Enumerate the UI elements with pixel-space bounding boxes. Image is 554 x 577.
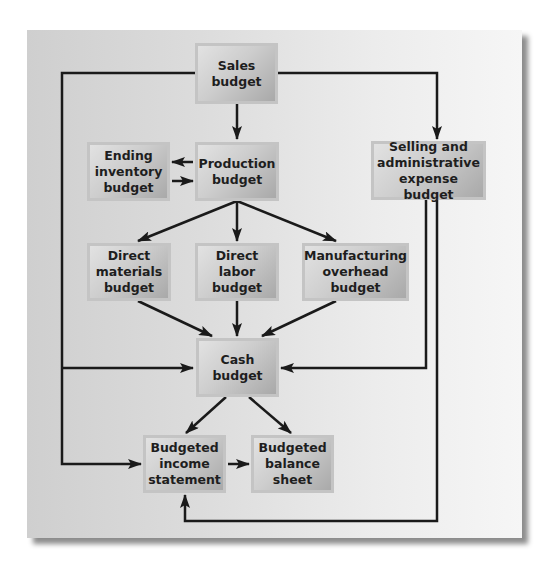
node-label: Cash budget	[212, 352, 262, 384]
node-ending-inventory-budget: Ending inventory budget	[87, 142, 170, 201]
node-label: Budgeted income statement	[148, 440, 221, 488]
node-direct-labor-budget: Direct labor budget	[195, 243, 279, 301]
node-label: Production budget	[199, 156, 276, 188]
node-label: Sales budget	[211, 58, 261, 90]
node-budgeted-balance-sheet: Budgeted balance sheet	[251, 435, 334, 493]
node-cash-budget: Cash budget	[196, 338, 279, 397]
node-direct-materials-budget: Direct materials budget	[87, 243, 171, 301]
node-label: Budgeted balance sheet	[258, 440, 326, 488]
node-label: Ending inventory budget	[95, 148, 163, 196]
node-label: Direct labor budget	[212, 248, 262, 296]
node-label: Direct materials budget	[96, 248, 163, 296]
node-selling-admin-expense-budget: Selling and administrative expense budge…	[371, 141, 486, 200]
node-budgeted-income-statement: Budgeted income statement	[143, 435, 226, 493]
node-manufacturing-overhead-budget: Manufacturing overhead budget	[302, 243, 409, 301]
node-label: Selling and administrative expense budge…	[376, 139, 481, 203]
node-label: Manufacturing overhead budget	[304, 248, 407, 296]
node-production-budget: Production budget	[195, 142, 279, 201]
node-sales-budget: Sales budget	[195, 43, 278, 104]
